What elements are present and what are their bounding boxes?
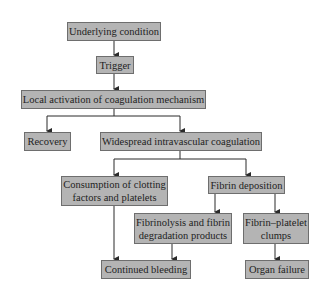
node-continued-bleeding: Continued bleeding [101, 260, 191, 279]
node-fibrin-deposition: Fibrin deposition [208, 176, 285, 194]
node-organ-failure: Organ failure [245, 260, 309, 279]
node-label-line2: clumps [261, 230, 291, 241]
node-label: Fibrin deposition [210, 180, 282, 191]
node-local-activation: Local activation of coagulation mechanis… [21, 90, 206, 109]
node-label: Underlying condition [69, 26, 159, 37]
node-fibrin-platelet-clumps: Fibrin–platelet clumps [243, 213, 309, 244]
node-label: Widespread intravascular coagulation [102, 136, 260, 147]
node-label: Organ failure [249, 264, 305, 275]
node-label-line2: factors and platelets [73, 192, 157, 203]
node-widespread-coagulation: Widespread intravascular coagulation [100, 132, 262, 151]
node-underlying-condition: Underlying condition [67, 22, 161, 41]
node-recovery: Recovery [24, 132, 71, 151]
node-label: Trigger [99, 60, 130, 71]
edge-widespread-split [114, 150, 246, 159]
node-label-line1: Fibrin–platelet [245, 217, 307, 228]
node-label: Local activation of coagulation mechanis… [23, 94, 204, 105]
node-label: Continued bleeding [105, 264, 188, 275]
node-trigger: Trigger [96, 56, 134, 74]
node-label-line1: Consumption of clotting [63, 179, 166, 190]
node-label-line1: Fibrinolysis and fibrin [136, 217, 230, 228]
node-consumption: Consumption of clotting factors and plat… [61, 176, 168, 206]
edge-local-split [47, 108, 180, 116]
node-label: Recovery [27, 136, 67, 147]
node-label-line2: degradation products [139, 230, 227, 241]
node-fibrinolysis: Fibrinolysis and fibrin degradation prod… [134, 213, 232, 244]
